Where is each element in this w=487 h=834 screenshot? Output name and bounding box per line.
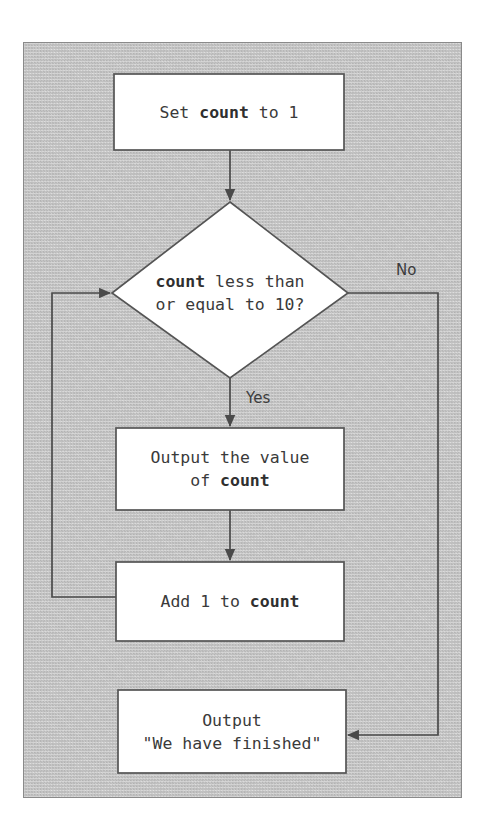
flowchart-figure: Set count to 1 count less thanor equal t… <box>0 0 487 834</box>
label-line: of count <box>190 469 269 492</box>
label-line: "We have finished" <box>143 732 322 755</box>
output-finished-box-label: Output"We have finished" <box>118 690 346 773</box>
label-line: Output <box>202 709 262 732</box>
label-line: or equal to 10? <box>155 293 304 316</box>
label-line: Output the value <box>151 446 310 469</box>
count-condition-diamond-label: count less thanor equal to 10? <box>120 255 340 331</box>
label-line: Set count to 1 <box>159 101 298 124</box>
set-count-box-label: Set count to 1 <box>114 74 344 150</box>
label-line: count less than <box>155 270 304 293</box>
edge-label-no: No <box>396 262 416 278</box>
flowchart-panel-background <box>23 42 462 798</box>
label-line: Add 1 to count <box>160 590 299 613</box>
add-one-box-label: Add 1 to count <box>116 562 344 641</box>
output-count-box-label: Output the valueof count <box>116 428 344 510</box>
edge-label-yes: Yes <box>246 390 270 406</box>
